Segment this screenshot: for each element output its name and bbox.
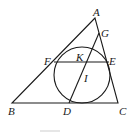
label-d: D [62, 105, 71, 117]
label-a: A [92, 6, 100, 18]
label-c: C [119, 105, 127, 117]
label-i: I [83, 72, 89, 84]
geometry-figure: A B C D E F G K I [0, 0, 135, 137]
segment-dg [69, 33, 99, 103]
label-e: E [108, 55, 116, 67]
caption-faint [40, 130, 60, 132]
label-g: G [101, 27, 109, 39]
label-b: B [8, 105, 15, 117]
label-k: K [75, 51, 84, 63]
label-f: F [43, 55, 51, 67]
